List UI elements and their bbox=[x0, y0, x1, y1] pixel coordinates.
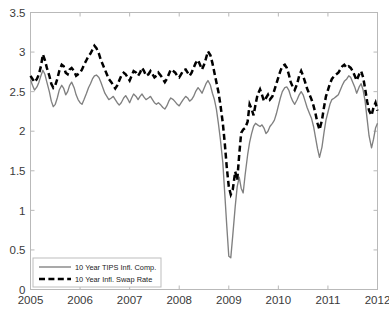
x-tick-label: 2011 bbox=[316, 294, 341, 306]
chart-figure: 00.511.522.533.5 20052006200720082009201… bbox=[0, 0, 389, 316]
y-tick-label: 3 bbox=[19, 46, 25, 58]
y-tick-label: 2 bbox=[19, 125, 25, 137]
x-tick-label: 2009 bbox=[216, 294, 242, 306]
x-tick-label: 2007 bbox=[117, 294, 143, 306]
y-tick-label: 3.5 bbox=[10, 7, 26, 19]
chart-legend: 10 Year TIPS Infl. Comp.10 Year Infl. Sw… bbox=[33, 258, 161, 287]
y-tick-label: 1 bbox=[19, 205, 25, 217]
legend-label-1: 10 Year TIPS Infl. Comp. bbox=[75, 263, 156, 272]
y-tick-label: 2.5 bbox=[10, 86, 26, 98]
legend-label-2: 10 Year Infl. Swap Rate bbox=[75, 275, 152, 284]
x-tick-label: 2005 bbox=[18, 294, 44, 306]
x-tick-label: 2008 bbox=[166, 294, 192, 306]
line-chart: 00.511.522.533.5 20052006200720082009201… bbox=[0, 0, 389, 316]
x-tick-label: 2012 bbox=[365, 294, 389, 306]
y-tick-label: 0.5 bbox=[10, 244, 26, 256]
x-tick-label: 2010 bbox=[266, 294, 292, 306]
y-tick-label: 1.5 bbox=[10, 165, 26, 177]
x-tick-label: 2006 bbox=[67, 294, 93, 306]
